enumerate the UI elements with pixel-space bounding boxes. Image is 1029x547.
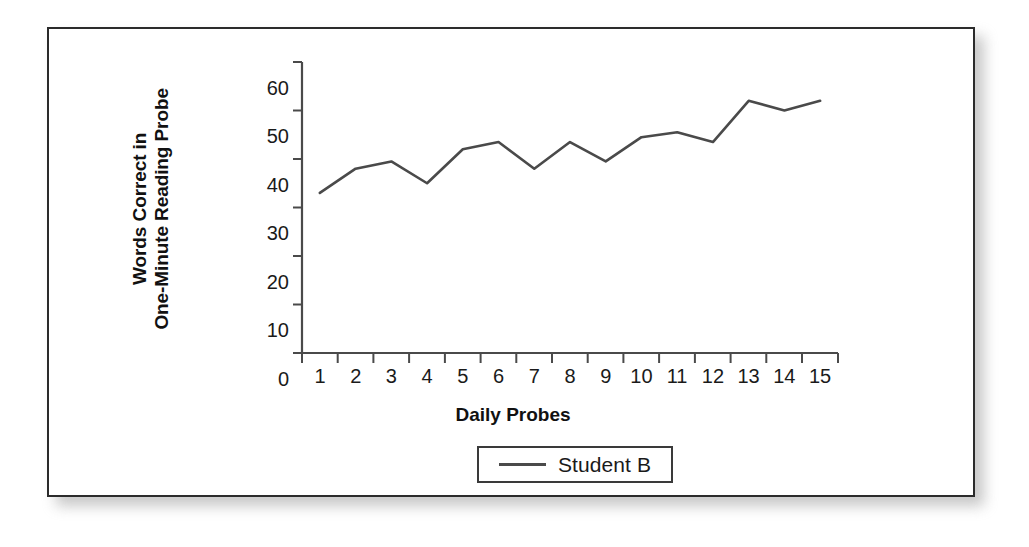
x-tick-label-4: 4 xyxy=(409,365,445,388)
x-tick-label-9: 9 xyxy=(588,365,624,388)
x-tick-label-3: 3 xyxy=(373,365,409,388)
legend-line-swatch xyxy=(499,463,546,466)
x-axis-title: Daily Probes xyxy=(49,404,977,426)
x-tick-label-8: 8 xyxy=(552,365,588,388)
x-tick-label-14: 14 xyxy=(766,365,802,388)
series-line-student-b xyxy=(320,101,820,193)
x-tick-label-7: 7 xyxy=(516,365,552,388)
x-tick-label-5: 5 xyxy=(445,365,481,388)
chart-legend: Student B xyxy=(477,446,673,483)
x-tick-label-2: 2 xyxy=(338,365,374,388)
legend-label-student-b: Student B xyxy=(558,453,651,477)
x-tick-label-13: 13 xyxy=(731,365,767,388)
x-tick-label-12: 12 xyxy=(695,365,731,388)
x-tick-label-1: 1 xyxy=(302,365,338,388)
x-tick-marks xyxy=(302,353,838,363)
x-tick-label-6: 6 xyxy=(481,365,517,388)
chart-plot-area: Words Correct in One-Minute Reading Prob… xyxy=(49,29,977,499)
x-tick-label-15: 15 xyxy=(802,365,838,388)
y-tick-marks xyxy=(293,62,302,353)
x-tick-label-11: 11 xyxy=(659,365,695,388)
figure-root: Words Correct in One-Minute Reading Prob… xyxy=(0,0,1029,547)
x-tick-label-10: 10 xyxy=(623,365,659,388)
chart-canvas xyxy=(49,29,977,499)
figure-frame: Words Correct in One-Minute Reading Prob… xyxy=(47,27,975,497)
